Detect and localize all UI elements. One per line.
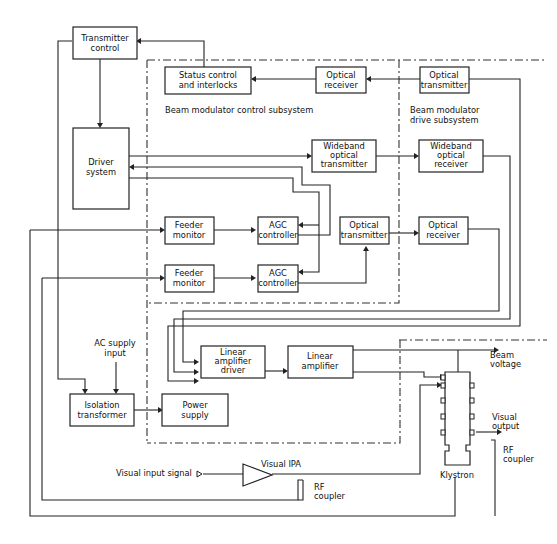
svg-text:transmitter: transmitter — [321, 159, 368, 169]
svg-text:Optical: Optical — [349, 220, 378, 230]
block-optical-receiver-top: Optical receiver — [316, 67, 366, 93]
svg-text:system: system — [86, 167, 116, 177]
block-linear-amplifier: Linear amplifier — [288, 346, 353, 378]
wire-agc2-to-opttx — [298, 248, 366, 283]
svg-text:Power: Power — [182, 400, 208, 410]
svg-text:controller: controller — [258, 278, 298, 288]
svg-text:driver: driver — [221, 365, 246, 375]
svg-text:transmitter: transmitter — [421, 80, 468, 90]
svg-text:Linear: Linear — [307, 351, 333, 361]
klystron-symbol — [441, 372, 474, 465]
rf-coupler-right-hook — [491, 440, 495, 516]
label-beam-voltage-2: voltage — [490, 359, 521, 369]
label-klystron: Klystron — [440, 470, 474, 480]
svg-text:receiver: receiver — [434, 159, 468, 169]
wire-optrx-mid-to-lad — [183, 229, 499, 362]
control-subsystem-boundary — [147, 60, 547, 443]
label-control-subsystem: Beam modulator control subsystem — [165, 105, 313, 115]
block-optical-receiver-mid: Optical receiver — [419, 217, 468, 244]
block-linear-amplifier-driver: Linear amplifier driver — [201, 346, 265, 378]
wire-la-to-klystron — [353, 372, 443, 377]
label-rf-coupler-bottom-2: coupler — [314, 491, 346, 501]
svg-text:Driver: Driver — [88, 157, 114, 167]
svg-text:supply: supply — [181, 410, 208, 420]
label-rf-coupler-right-2: coupler — [503, 454, 535, 464]
svg-text:Status control: Status control — [179, 70, 237, 80]
label-visual-ipa: Visual IPA — [261, 459, 301, 469]
label-drive-subsystem-2: drive subsystem — [410, 115, 478, 125]
block-feeder-monitor-2: Feeder monitor — [165, 265, 214, 292]
block-transmitter-control: Transmitter control — [73, 27, 137, 59]
block-power-supply: Power supply — [162, 394, 228, 426]
wire-status-to-txctrl — [138, 41, 204, 67]
svg-text:Optical: Optical — [326, 70, 355, 80]
svg-text:Feeder: Feeder — [175, 268, 204, 278]
rf-coupler-bottom-hook — [298, 480, 303, 500]
klystron-transmitter-block-diagram: Transmitter control Status control and i… — [0, 0, 557, 544]
block-agc-controller-2: AGC controller — [258, 265, 298, 292]
svg-text:transformer: transformer — [77, 410, 127, 420]
label-visual-input-signal: Visual input signal — [116, 468, 192, 478]
label-drive-subsystem-1: Beam modulator — [410, 105, 480, 115]
block-agc-controller-1: AGC controller — [258, 217, 298, 244]
label-ac-supply-1: AC supply — [94, 338, 135, 348]
svg-text:Feeder: Feeder — [175, 220, 204, 230]
block-driver-system: Driver system — [73, 128, 129, 209]
svg-text:monitor: monitor — [173, 230, 206, 240]
label-visual-output-2: output — [492, 421, 520, 431]
svg-text:Isolation: Isolation — [84, 400, 119, 410]
svg-text:Optical: Optical — [428, 220, 457, 230]
block-wideband-optical-receiver: Wideband optical receiver — [419, 140, 483, 172]
block-optical-transmitter-top: Optical transmitter — [420, 67, 469, 93]
svg-text:amplifier: amplifier — [302, 361, 339, 371]
svg-text:transmitter: transmitter — [341, 230, 388, 240]
block-isolation-transformer: Isolation transformer — [70, 394, 134, 426]
svg-text:AGC: AGC — [269, 268, 287, 278]
svg-text:monitor: monitor — [173, 278, 206, 288]
block-feeder-monitor-1: Feeder monitor — [165, 217, 214, 244]
block-optical-transmitter-mid: Optical transmitter — [340, 217, 389, 244]
svg-text:Transmitter: Transmitter — [80, 33, 129, 43]
svg-text:and interlocks: and interlocks — [179, 80, 238, 90]
wire-txctrl-to-isolation — [58, 41, 85, 392]
block-wideband-optical-transmitter: Wideband optical transmitter — [312, 140, 376, 172]
svg-text:receiver: receiver — [324, 80, 358, 90]
svg-text:controller: controller — [258, 230, 298, 240]
svg-text:AGC: AGC — [269, 220, 287, 230]
label-ac-supply-2: input — [104, 348, 126, 358]
svg-text:receiver: receiver — [426, 230, 460, 240]
svg-text:control: control — [91, 43, 120, 53]
block-status-control-interlocks: Status control and interlocks — [165, 67, 251, 94]
svg-text:Optical: Optical — [429, 70, 458, 80]
